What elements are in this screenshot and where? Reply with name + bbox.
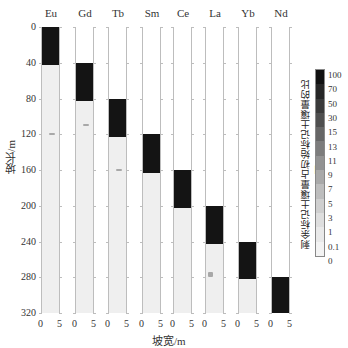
- tick-mark: [203, 63, 206, 64]
- tick-mark: [73, 27, 76, 28]
- x-tick-label: 5: [124, 318, 129, 329]
- panel-gd: [75, 27, 94, 313]
- colorbar: [315, 69, 325, 257]
- tick-mark: [289, 242, 292, 243]
- tick-mark: [73, 63, 76, 64]
- tick-mark: [256, 206, 259, 207]
- x-tick-label: 5: [158, 318, 163, 329]
- tick-mark: [269, 99, 272, 100]
- tick-mark: [203, 313, 206, 314]
- colorbar-segment: [316, 84, 324, 98]
- tick-mark: [171, 277, 174, 278]
- tick-mark: [289, 170, 292, 171]
- tick-mark: [93, 63, 96, 64]
- tick-mark: [126, 99, 129, 100]
- tick-mark: [93, 170, 96, 171]
- x-tick-label: 5: [287, 318, 292, 329]
- tick-mark: [160, 134, 163, 135]
- colorbar-level-label: 1: [328, 227, 333, 237]
- tick-mark: [191, 206, 194, 207]
- residual-area: [109, 137, 126, 313]
- tick-mark: [59, 134, 62, 135]
- tick-mark: [93, 206, 96, 207]
- colorbar-segment: [316, 199, 324, 213]
- tick-mark: [289, 99, 292, 100]
- tick-mark: [73, 206, 76, 207]
- tick-mark: [236, 27, 239, 28]
- residual-area: [239, 279, 256, 313]
- tick-mark: [93, 242, 96, 243]
- tick-mark: [191, 277, 194, 278]
- panel-nd: [271, 27, 290, 313]
- tick-mark: [126, 206, 129, 207]
- tick-mark: [171, 206, 174, 207]
- tick-mark: [236, 313, 239, 314]
- tick-mark: [59, 313, 62, 314]
- colorbar-level-label: 100: [328, 70, 342, 80]
- x-tick-label: 0: [235, 318, 240, 329]
- tick-mark: [39, 134, 42, 135]
- tick-mark: [59, 170, 62, 171]
- tick-mark: [106, 99, 109, 100]
- tick-mark: [223, 99, 226, 100]
- tick-mark: [269, 313, 272, 314]
- tick-mark: [39, 206, 42, 207]
- tick-mark: [106, 313, 109, 314]
- tick-mark: [191, 63, 194, 64]
- tick-mark: [93, 313, 96, 314]
- tick-mark: [73, 170, 76, 171]
- panel-title-nd: Nd: [261, 7, 301, 19]
- colorbar-segment: [316, 227, 324, 241]
- colorbar-segment: [316, 184, 324, 198]
- tick-mark: [59, 206, 62, 207]
- panel-tb: [108, 27, 127, 313]
- x-tick-label: 0: [139, 318, 144, 329]
- tick-mark: [223, 63, 226, 64]
- tick-mark: [160, 313, 163, 314]
- tick-mark: [160, 170, 163, 171]
- residual-area: [206, 244, 223, 313]
- tick-mark: [73, 99, 76, 100]
- tick-mark: [59, 242, 62, 243]
- tick-mark: [223, 170, 226, 171]
- tick-mark: [203, 99, 206, 100]
- tick-mark: [289, 27, 292, 28]
- tick-mark: [106, 27, 109, 28]
- tick-mark: [39, 277, 42, 278]
- y-tick-label: 200: [12, 200, 36, 211]
- colorbar-segment: [316, 156, 324, 170]
- marked-soil-block: [109, 99, 126, 137]
- tick-mark: [236, 242, 239, 243]
- y-tick-label: 80: [12, 93, 36, 104]
- colorbar-level-label: 30: [328, 113, 337, 123]
- tick-mark: [171, 170, 174, 171]
- x-tick-label: 5: [57, 318, 62, 329]
- tick-mark: [223, 206, 226, 207]
- tick-mark: [289, 313, 292, 314]
- tick-mark: [171, 63, 174, 64]
- tick-mark: [236, 99, 239, 100]
- panel-sm: [142, 27, 161, 313]
- tick-mark: [126, 27, 129, 28]
- residual-area: [76, 101, 93, 313]
- tick-mark: [269, 63, 272, 64]
- tick-mark: [93, 27, 96, 28]
- x-tick-label: 5: [221, 318, 226, 329]
- tick-mark: [39, 170, 42, 171]
- x-tick-label: 0: [202, 318, 207, 329]
- colorbar-segment: [316, 113, 324, 127]
- tick-mark: [223, 27, 226, 28]
- y-tick-label: 40: [12, 57, 36, 68]
- tick-mark: [160, 242, 163, 243]
- colorbar-segment: [316, 170, 324, 184]
- marked-soil-block: [143, 134, 160, 172]
- tick-mark: [269, 170, 272, 171]
- tick-mark: [59, 99, 62, 100]
- x-tick-label: 0: [72, 318, 77, 329]
- tick-mark: [140, 206, 143, 207]
- residual-spot: [49, 133, 55, 135]
- tick-mark: [256, 170, 259, 171]
- tick-mark: [73, 134, 76, 135]
- y-tick-label: 120: [12, 128, 36, 139]
- tick-mark: [203, 242, 206, 243]
